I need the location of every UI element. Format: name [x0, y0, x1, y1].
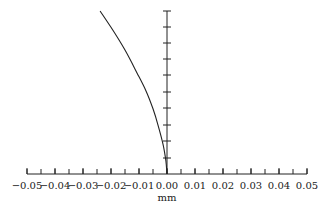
x-tick-label: 0.02	[212, 180, 234, 191]
x-tick-label: −0.03	[68, 180, 99, 191]
chart-canvas: −0.05−0.04−0.03−0.02−0.010.000.010.020.0…	[0, 0, 326, 208]
x-tick-label: −0.04	[40, 180, 71, 191]
x-tick-label: −0.01	[124, 180, 155, 191]
x-tick-label: 0.05	[296, 180, 318, 191]
x-tick-label: 0.03	[240, 180, 262, 191]
x-tick-label: 0.01	[184, 180, 206, 191]
x-tick-label: −0.05	[12, 180, 43, 191]
series-group	[100, 11, 167, 174]
x-tick-label: 0.04	[268, 180, 290, 191]
series-curve	[100, 11, 167, 174]
x-axis-label: mm	[158, 192, 177, 203]
x-axis: −0.05−0.04−0.03−0.02−0.010.000.010.020.0…	[12, 168, 318, 191]
x-tick-label: −0.02	[96, 180, 127, 191]
x-tick-label: 0.00	[156, 180, 178, 191]
